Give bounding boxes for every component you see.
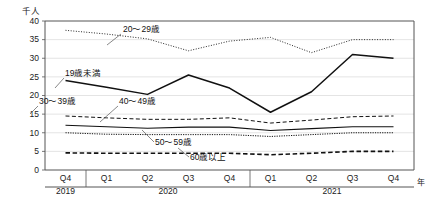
y-tick-label-40: 40 (30, 16, 40, 26)
series-label-2: 30～39歳 (39, 96, 76, 106)
x-year-label-1: 2020 (159, 186, 178, 196)
x-tick-labels: Q4Q1Q2Q3Q4Q1Q2Q3Q4 (60, 173, 400, 183)
line-chart: 千人 0510152025303540 20～29歳19歳未満30～39歳40～… (0, 0, 434, 202)
chart-svg: 千人 0510152025303540 20～29歳19歳未満30～39歳40～… (0, 0, 434, 202)
series-line-4 (66, 133, 394, 137)
x-tick-label-6: Q2 (306, 173, 318, 183)
series-label-3: 40～49歳 (119, 96, 156, 106)
y-tick-label-25: 25 (30, 72, 40, 82)
x-tick-label-2: Q2 (142, 173, 154, 183)
series-annotations: 20～29歳19歳未満30～39歳40～49歳50～59歳60歳以上 (30, 24, 226, 162)
y-tick-labels: 0510152025303540 (30, 16, 40, 175)
series-line-1 (66, 55, 394, 113)
y-tick-label-20: 20 (30, 90, 40, 100)
x-year-label-0: 2019 (56, 186, 75, 196)
annotation-leader-4 (142, 130, 154, 142)
series-line-5 (66, 151, 394, 154)
series-label-4: 50～59歳 (155, 137, 192, 147)
x-tick-label-4: Q4 (224, 173, 236, 183)
series-label-5: 60歳以上 (190, 152, 226, 162)
series-line-2 (66, 116, 394, 123)
x-tick-label-3: Q3 (183, 173, 195, 183)
y-tick-label-30: 30 (30, 53, 40, 63)
series-label-1: 19歳未満 (65, 68, 101, 78)
annotation-leader-1 (55, 78, 64, 88)
series-label-0: 20～29歳 (123, 24, 160, 34)
y-tick-label-0: 0 (34, 165, 39, 175)
x-tick-label-0: Q4 (60, 173, 72, 183)
x-tick-label-1: Q1 (101, 173, 113, 183)
x-tick-label-8: Q4 (388, 173, 400, 183)
y-tick-label-5: 5 (34, 146, 39, 156)
x-axis-caption: 年 (417, 177, 425, 187)
y-tick-label-10: 10 (30, 128, 40, 138)
x-year-label-2: 2021 (323, 186, 342, 196)
x-tick-label-5: Q1 (265, 173, 277, 183)
y-gridlines (42, 21, 414, 170)
x-tick-label-7: Q3 (347, 173, 359, 183)
series-group (66, 30, 394, 154)
series-line-0 (66, 30, 394, 52)
y-tick-label-35: 35 (30, 34, 40, 44)
y-tick-label-15: 15 (30, 109, 40, 119)
series-line-3 (66, 125, 394, 130)
y-axis-unit-label: 千人 (22, 6, 40, 16)
